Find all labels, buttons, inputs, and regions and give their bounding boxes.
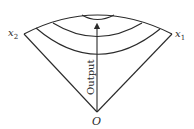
output-label: Output <box>85 59 96 95</box>
x1-label: x1 <box>175 28 185 42</box>
outer-arc <box>24 15 172 34</box>
x2-label: x2 <box>8 27 18 41</box>
isoquant-3 <box>36 28 160 54</box>
isoquant-diagram: Output O x2 x1 <box>0 0 194 129</box>
origin-label: O <box>92 115 101 128</box>
